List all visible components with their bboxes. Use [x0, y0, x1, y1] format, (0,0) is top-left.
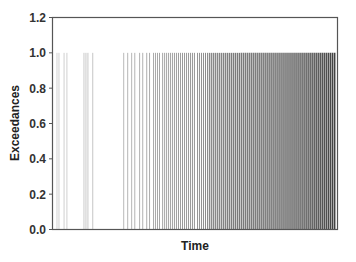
- y-tick-label: 1.2: [29, 11, 46, 25]
- y-axis-title: Exceedances: [8, 85, 22, 161]
- y-axis-ticks: 0.00.20.40.60.81.01.2: [29, 11, 53, 237]
- exceedance-spikes: [57, 53, 335, 230]
- y-tick-label: 0.8: [29, 82, 46, 96]
- y-tick-label: 0.6: [29, 117, 46, 131]
- exceedance-chart: 0.00.20.40.60.81.01.2 Exceedances Time: [0, 0, 356, 262]
- y-tick-label: 0.0: [29, 223, 46, 237]
- x-axis-title: Time: [181, 239, 209, 253]
- y-tick-label: 0.2: [29, 188, 46, 202]
- y-tick-label: 1.0: [29, 46, 46, 60]
- y-tick-label: 0.4: [29, 152, 46, 166]
